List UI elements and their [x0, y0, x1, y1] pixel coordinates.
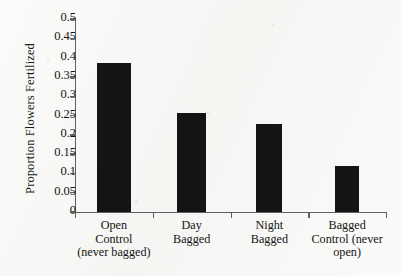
- x-axis-category-label-line: Bagged: [301, 219, 393, 233]
- x-axis-tick-mark: [308, 212, 309, 218]
- x-axis-tick-mark: [386, 212, 387, 218]
- x-axis-tick-mark: [231, 212, 232, 218]
- x-axis-category-label-line: Control (never: [301, 233, 393, 247]
- x-axis-tick-mark: [153, 212, 154, 218]
- bar: [177, 113, 206, 212]
- x-axis-category-label-line: open): [301, 246, 393, 260]
- x-axis-category-label-line: (never bagged): [68, 246, 160, 260]
- x-axis-category-label: BaggedControl (neveropen): [301, 219, 393, 260]
- bars-layer: [0, 19, 401, 212]
- bar: [335, 166, 359, 212]
- bar-chart-figure: Proportion Flowers Fertilized 0.50.450.4…: [0, 0, 401, 276]
- bar: [256, 124, 282, 212]
- bar: [97, 63, 131, 212]
- x-axis-tick-mark: [75, 212, 76, 218]
